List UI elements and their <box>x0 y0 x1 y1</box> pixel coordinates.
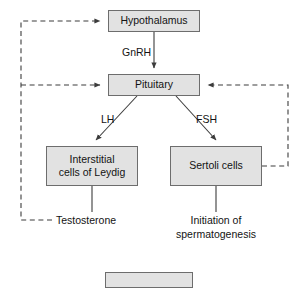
edge-label-gnrh: GnRH <box>122 46 151 58</box>
outcome-initiation-line1: Initiation of <box>191 214 242 226</box>
node-pituitary[interactable]: Pituitary <box>108 74 200 96</box>
node-sertoli-cells[interactable]: Sertoli cells <box>170 146 262 186</box>
outcome-label-initiation-of-spermatogenesis: Initiation of spermatogenesis <box>166 214 266 241</box>
node-pituitary-label: Pituitary <box>109 78 199 91</box>
node-leydig-label-line1: Interstitial <box>70 153 115 165</box>
edge-label-fsh: FSH <box>196 113 217 125</box>
node-clipped-bottom-box[interactable] <box>105 272 193 288</box>
edge-testosterone-feedback <box>21 21 100 220</box>
node-sertoli-label: Sertoli cells <box>171 159 261 172</box>
outcome-initiation-line2: spermatogenesis <box>166 228 266 242</box>
node-interstitial-cells-of-leydig[interactable]: Interstitial cells of Leydig <box>46 146 138 186</box>
node-leydig-label-line2: cells of Leydig <box>50 166 134 179</box>
node-hypothalamus-label: Hypothalamus <box>109 14 199 27</box>
outcome-label-testosterone: Testosterone <box>56 214 116 228</box>
node-hypothalamus[interactable]: Hypothalamus <box>108 10 200 32</box>
node-leydig-label: Interstitial cells of Leydig <box>47 153 137 179</box>
edge-label-lh: LH <box>101 113 114 125</box>
